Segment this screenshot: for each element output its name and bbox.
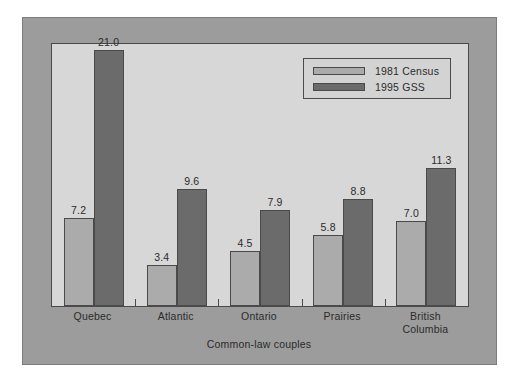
x-axis-category-label: Quebec xyxy=(51,310,134,323)
bar-value-label: 21.0 xyxy=(88,36,130,48)
bar-value-label: 8.8 xyxy=(337,185,379,197)
legend-swatch-1981-census xyxy=(313,67,365,75)
bar-ontario-1995-gss xyxy=(260,210,290,306)
figure-frame: 7.221.03.49.64.57.95.88.87.011.3 1981 Ce… xyxy=(22,17,497,365)
x-axis-tick xyxy=(302,299,303,306)
bar-quebec-1981-census xyxy=(64,218,94,306)
x-axis-title: Common-law couples xyxy=(51,338,467,350)
bar-prairies-1981-census xyxy=(313,235,343,306)
x-axis-category-label: Prairies xyxy=(301,310,384,323)
legend-entry-1995-gss: 1995 GSS xyxy=(313,80,425,94)
x-axis-tick xyxy=(135,299,136,306)
bar-british-columbia-1995-gss xyxy=(426,168,456,306)
x-axis-category-label: Ontario xyxy=(217,310,300,323)
legend-swatch-1995-gss xyxy=(313,83,365,91)
chart-legend: 1981 Census 1995 GSS xyxy=(303,58,451,99)
bar-british-columbia-1981-census xyxy=(396,221,426,306)
legend-entry-1981-census: 1981 Census xyxy=(313,64,439,78)
legend-label-1981-census: 1981 Census xyxy=(375,65,439,77)
bar-value-label: 9.6 xyxy=(171,175,213,187)
bar-atlantic-1981-census xyxy=(147,265,177,306)
x-axis-category-label: Atlantic xyxy=(134,310,217,323)
x-axis-tick xyxy=(218,299,219,306)
x-axis-category-label: British Columbia xyxy=(384,310,467,335)
bar-atlantic-1995-gss xyxy=(177,189,207,306)
bar-value-label: 7.9 xyxy=(254,196,296,208)
bar-ontario-1981-census xyxy=(230,251,260,306)
bar-value-label: 11.3 xyxy=(420,154,462,166)
legend-label-1995-gss: 1995 GSS xyxy=(375,81,425,93)
bar-quebec-1995-gss xyxy=(94,50,124,306)
bar-prairies-1995-gss xyxy=(343,199,373,306)
x-axis-tick xyxy=(385,299,386,306)
